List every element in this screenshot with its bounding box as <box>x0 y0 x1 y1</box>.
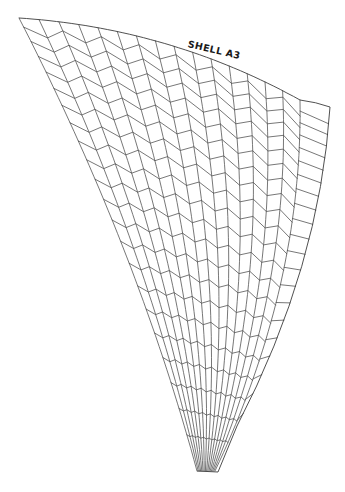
chevron-row <box>171 383 245 401</box>
outer-rung <box>300 111 329 124</box>
outer-rung <box>300 123 328 135</box>
outer-rung <box>280 285 295 287</box>
outer-rung <box>300 135 327 146</box>
shell-diagram <box>0 0 345 492</box>
chevron-row <box>138 286 271 323</box>
outer-rung <box>299 161 324 171</box>
chevron-row-lines <box>24 27 300 442</box>
outer-rung <box>293 219 313 225</box>
outer-rung <box>284 267 301 270</box>
column-line <box>79 25 201 472</box>
outer-rung <box>287 251 305 255</box>
column-line <box>209 59 229 471</box>
column-line <box>211 74 253 471</box>
outer-rung <box>266 338 277 340</box>
outer-rung <box>299 148 325 158</box>
shell-outline <box>19 18 330 472</box>
outer-rung <box>295 203 316 210</box>
chevron-row <box>129 263 275 305</box>
column-lines <box>19 18 300 471</box>
column-line <box>155 41 206 471</box>
chevron-row <box>163 358 253 381</box>
chevron-row <box>54 88 298 165</box>
chevron-row <box>95 179 290 238</box>
outer-right-edge <box>218 107 330 472</box>
outer-rung <box>298 174 322 183</box>
outer-rung <box>290 234 309 239</box>
outer-rung <box>296 189 318 197</box>
chevron-row <box>155 333 260 361</box>
chevron-row <box>31 42 300 128</box>
chevron-row <box>146 309 265 342</box>
outer-rung <box>271 320 284 321</box>
